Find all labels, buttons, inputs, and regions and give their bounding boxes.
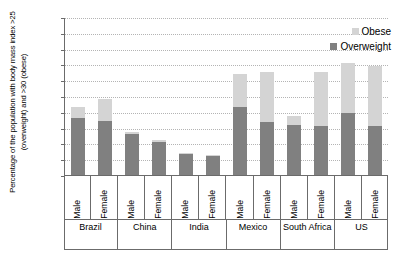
bar-segment-overweight (233, 107, 247, 175)
x-axis-sex-cell: Male (281, 176, 308, 219)
x-axis-sex-cell: Female (254, 176, 281, 219)
x-axis-sex-label: Female (370, 189, 380, 219)
y-axis-title: Percentage of the population with body m… (8, 4, 40, 200)
bar-chart: Percentage of the population with body m… (0, 0, 401, 254)
x-axis-sex-label: Female (207, 189, 217, 219)
x-axis-sex-label: Female (262, 189, 272, 219)
x-axis-sex-cell: Female (362, 176, 388, 219)
bar-segment-overweight (287, 125, 301, 175)
bar-segment-obese (260, 72, 274, 122)
x-axis: MaleFemaleMaleFemaleMaleFemaleMaleFemale… (64, 176, 388, 250)
bar-segment-overweight (314, 126, 328, 175)
x-axis-sex-label: Male (289, 199, 299, 219)
legend-item-obese: Obese (281, 24, 391, 39)
bar-segment-overweight (368, 126, 382, 175)
bar-segment-obese (233, 74, 247, 107)
bar-segment-overweight (341, 113, 355, 175)
legend-label-obese: Obese (362, 26, 391, 37)
bar-segment-overweight (206, 156, 220, 175)
bar-segment-overweight (125, 134, 139, 175)
bar-china-male (125, 132, 139, 175)
legend-swatch-overweight-icon (330, 43, 337, 50)
bar-segment-overweight (152, 142, 166, 175)
bar-mexico-female (260, 72, 274, 175)
x-axis-country-label: Mexico (227, 220, 281, 250)
x-axis-sex-cell: Male (226, 176, 253, 219)
bar-mexico-male (233, 74, 247, 175)
x-axis-sex-label: Female (316, 189, 326, 219)
legend-label-overweight: Overweight (340, 41, 391, 52)
x-axis-sex-label: Male (235, 199, 245, 219)
x-axis-sex-cell: Female (308, 176, 335, 219)
bar-south-africa-male (287, 116, 301, 175)
bar-slot (65, 18, 92, 175)
bar-segment-obese (368, 66, 382, 126)
bar-segment-overweight (179, 154, 193, 175)
legend-item-overweight: Overweight (281, 39, 391, 54)
bar-us-male (341, 63, 355, 175)
bar-segment-obese (98, 99, 112, 121)
bar-segment-obese (341, 63, 355, 114)
x-axis-country-label: China (118, 220, 172, 250)
bar-slot (253, 18, 280, 175)
bar-brazil-female (98, 99, 112, 175)
x-axis-sex-label: Male (72, 199, 82, 219)
bar-slot (146, 18, 173, 175)
bar-india-female (206, 155, 220, 175)
x-axis-sex-label: Female (99, 189, 109, 219)
legend: Obese Overweight (281, 24, 391, 54)
legend-swatch-obese-icon (352, 28, 359, 35)
x-axis-sex-cell: Female (199, 176, 226, 219)
x-axis-sex-cell: Female (91, 176, 118, 219)
bar-segment-obese (314, 72, 328, 126)
x-axis-country-label: US (335, 220, 388, 250)
bar-india-male (179, 153, 193, 175)
x-axis-sex-label: Male (126, 199, 136, 219)
x-axis-sex-row: MaleFemaleMaleFemaleMaleFemaleMaleFemale… (64, 176, 388, 220)
x-axis-sex-label: Female (153, 189, 163, 219)
bar-segment-overweight (260, 122, 274, 175)
bar-china-female (152, 140, 166, 175)
bar-south-africa-female (314, 72, 328, 175)
bar-slot (92, 18, 119, 175)
bar-segment-overweight (98, 121, 112, 175)
x-axis-sex-cell: Male (335, 176, 362, 219)
bar-segment-overweight (71, 118, 85, 175)
bar-us-female (368, 66, 382, 175)
x-axis-sex-label: Male (180, 199, 190, 219)
bar-slot (173, 18, 200, 175)
x-axis-sex-cell: Male (64, 176, 91, 219)
bar-slot (227, 18, 254, 175)
bar-slot (119, 18, 146, 175)
x-axis-sex-cell: Male (118, 176, 145, 219)
bar-brazil-male (71, 107, 85, 175)
x-axis-country-row: BrazilChinaIndiaMexicoSouth AfricaUS (64, 220, 388, 250)
bar-slot (200, 18, 227, 175)
bar-segment-obese (287, 116, 301, 125)
x-axis-country-label: South Africa (281, 220, 335, 250)
x-axis-country-label: India (172, 220, 226, 250)
x-axis-sex-label: Male (343, 199, 353, 219)
bar-segment-obese (71, 107, 85, 118)
x-axis-sex-cell: Male (172, 176, 199, 219)
x-axis-sex-cell: Female (145, 176, 172, 219)
x-axis-country-label: Brazil (64, 220, 118, 250)
